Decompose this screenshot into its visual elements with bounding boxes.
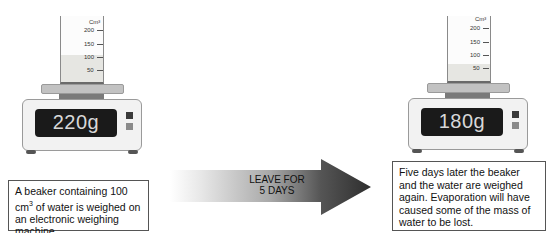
left-caption-rest: of water is weighed on an electronic wei… [15,200,140,233]
left-tick-50: 50 [87,67,94,73]
right-tick-100: 100 [470,52,480,58]
arrow-label-line2: 5 DAYS [232,185,322,196]
left-tick-100: 100 [84,54,94,60]
left-tick-150: 150 [84,41,94,47]
right-caption-text: Five days later the beaker and the water… [399,166,530,228]
left-caption-sup: 3 [29,200,33,207]
left-scale-body: 220g [22,99,142,151]
left-water [61,55,103,82]
left-unit-label: Cm³ [89,19,100,25]
right-scale-display: 180g [421,108,503,136]
right-caption-box: Five days later the beaker and the water… [392,161,546,231]
right-tick-50: 50 [473,65,480,71]
arrow-label: LEAVE FOR 5 DAYS [232,174,322,196]
left-beaker [60,16,104,84]
left-scale-display: 220g [35,109,117,137]
right-water [448,64,490,81]
left-tick-200: 200 [84,27,94,33]
right-beaker [447,16,491,83]
right-tick-200: 200 [470,25,480,31]
right-unit-label: Cm³ [475,16,486,22]
right-scale-button-1 [512,111,519,118]
left-scale-button-2 [126,123,133,130]
right-tick-150: 150 [470,39,480,45]
right-scale-button-2 [512,122,519,129]
left-scale-button-1 [126,112,133,119]
left-caption-box: A beaker containing 100 cm3 of water is … [8,180,149,231]
arrow-label-line1: LEAVE FOR [232,174,322,185]
left-scale-pan [41,84,124,94]
right-scale-body: 180g [408,98,528,150]
right-scale-pan [427,83,510,93]
